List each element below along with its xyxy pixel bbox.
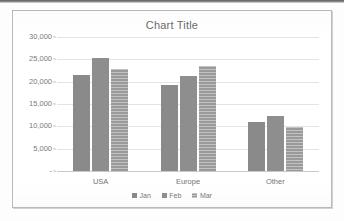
bar-series-layer — [57, 37, 319, 171]
y-tick-label: 30,000 — [29, 33, 52, 41]
legend-swatch-icon — [162, 193, 167, 198]
y-tick-mark — [53, 126, 56, 127]
bar-group — [73, 37, 128, 171]
legend-label: Feb — [169, 192, 181, 199]
bar[interactable] — [92, 58, 109, 171]
x-category-label: USA — [93, 177, 108, 186]
y-tick-mark — [53, 148, 56, 149]
chart-container[interactable]: Chart Title - 5,00010,00015,00020,00025,… — [12, 10, 332, 208]
bar[interactable] — [267, 116, 284, 171]
y-tick-mark — [53, 104, 56, 105]
plot-area: - 5,00010,00015,00020,00025,00030,000 — [57, 37, 319, 171]
y-tick-label: 20,000 — [29, 78, 52, 86]
y-tick-label: 15,000 — [29, 100, 52, 108]
legend-label: Jan — [140, 192, 151, 199]
bar-group — [161, 37, 216, 171]
bar[interactable] — [161, 85, 178, 171]
legend-swatch-icon — [132, 193, 137, 198]
bar[interactable] — [286, 127, 303, 171]
y-tick-mark — [53, 171, 56, 172]
y-tick-mark — [53, 37, 56, 38]
y-tick-label: - — [50, 167, 53, 175]
chart-title: Chart Title — [13, 19, 331, 31]
legend-item[interactable]: Jan — [132, 192, 151, 199]
bar[interactable] — [111, 69, 128, 171]
axis-baseline — [57, 171, 319, 172]
legend-item[interactable]: Mar — [192, 192, 212, 199]
y-tick-mark — [53, 59, 56, 60]
x-category-label: Other — [266, 177, 285, 186]
chart-legend[interactable]: JanFebMar — [13, 192, 331, 199]
y-tick-label: 25,000 — [29, 56, 52, 64]
bar[interactable] — [199, 66, 216, 171]
y-tick-label: 10,000 — [29, 123, 52, 131]
legend-label: Mar — [200, 192, 212, 199]
legend-swatch-icon — [192, 193, 197, 198]
bar-group — [248, 37, 303, 171]
y-tick-label: 5,000 — [33, 145, 52, 153]
bar[interactable] — [180, 76, 197, 171]
bar[interactable] — [248, 122, 265, 171]
y-tick-mark — [53, 81, 56, 82]
bar[interactable] — [73, 75, 90, 171]
legend-item[interactable]: Feb — [162, 192, 182, 199]
x-category-label: Europe — [176, 177, 200, 186]
